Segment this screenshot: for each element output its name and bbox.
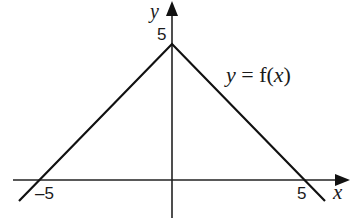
x-tick-5: 5 (297, 184, 306, 203)
function-label-close: ) (284, 62, 291, 87)
function-label: y = f(x) (224, 62, 291, 87)
x-axis-label: x (332, 180, 343, 204)
y-axis-arrow-icon (166, 1, 178, 16)
y-tick-5: 5 (157, 25, 166, 44)
x-tick-neg5: –5 (35, 184, 54, 203)
graph-canvas: y 5 –5 5 x y = f(x) (0, 0, 352, 219)
function-label-eq: = f( (236, 62, 274, 87)
function-label-y: y (224, 62, 236, 87)
function-label-x: x (273, 62, 284, 87)
y-axis-label: y (148, 0, 159, 23)
